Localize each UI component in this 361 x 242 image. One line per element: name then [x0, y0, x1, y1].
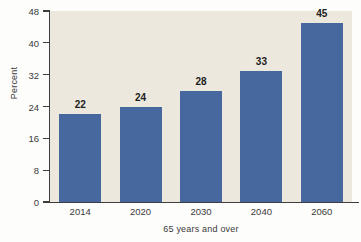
y-axis-tick-label: 8 — [13, 165, 39, 176]
y-axis-tick — [43, 74, 50, 75]
bar-value-label: 33 — [241, 56, 281, 67]
bar — [180, 91, 222, 202]
y-axis-tick-label: 48 — [13, 6, 39, 17]
y-axis-tick — [43, 106, 50, 107]
bar — [240, 71, 282, 202]
x-axis-tick-label: 2030 — [176, 206, 226, 217]
y-axis-tick-label: 16 — [13, 133, 39, 144]
y-axis-tick-label: 0 — [13, 197, 39, 208]
bar-value-label: 24 — [121, 92, 161, 103]
y-axis-tick-label: 32 — [13, 69, 39, 80]
x-axis-title: 65 years and over — [50, 224, 352, 234]
bar-chart: Percent 081624324048 2224283345 20142020… — [0, 0, 361, 242]
y-axis-tick-label: 24 — [13, 101, 39, 112]
y-axis-tick — [43, 42, 50, 43]
x-axis-tick-label: 2014 — [55, 206, 105, 217]
bar-value-label: 22 — [60, 99, 100, 110]
y-axis-tick — [43, 201, 50, 202]
bar-value-label: 28 — [181, 76, 221, 87]
bar — [301, 23, 343, 202]
bar — [120, 107, 162, 203]
y-axis-tick — [43, 170, 50, 171]
y-axis-tick — [43, 10, 50, 11]
bar-value-label: 45 — [302, 8, 342, 19]
x-axis-tick-label: 2060 — [297, 206, 347, 217]
bar — [59, 114, 101, 202]
x-axis-tick-label: 2040 — [236, 206, 286, 217]
y-axis-tick — [43, 138, 50, 139]
x-axis-tick-label: 2020 — [116, 206, 166, 217]
y-axis-tick-label: 40 — [13, 37, 39, 48]
